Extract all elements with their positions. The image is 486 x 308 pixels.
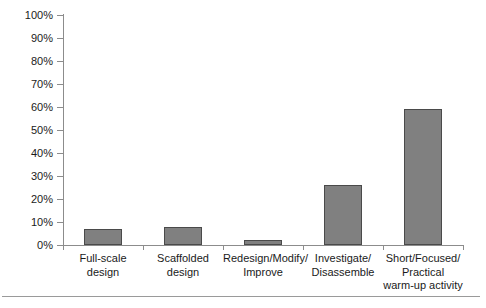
y-axis-tick-label: 100% <box>8 10 53 21</box>
bar <box>324 185 362 245</box>
y-axis-tick-label: 0% <box>8 240 53 251</box>
x-axis-tick-mark <box>223 245 224 250</box>
y-axis-tick-label: 20% <box>8 194 53 205</box>
y-axis-tick-label-text: 50% <box>13 125 53 136</box>
x-axis-category-label: Scaffoldeddesign <box>143 252 223 279</box>
y-axis-tick-label: 80% <box>8 56 53 67</box>
x-axis-category-label-line: design <box>143 266 223 280</box>
x-axis-tick-mark <box>463 245 464 250</box>
y-axis-tick-label: 70% <box>8 79 53 90</box>
y-axis-tick-label: 30% <box>8 171 53 182</box>
y-axis-tick-label-text: 70% <box>13 79 53 90</box>
x-axis-category-label-line: Full-scale <box>63 252 143 266</box>
x-axis-tick-mark <box>383 245 384 250</box>
x-axis-category-label-line: Investigate/ <box>303 252 383 266</box>
y-axis-tick-label-text: 10% <box>13 217 53 228</box>
x-axis-category-label-line: Redesign/Modify/ <box>223 252 303 266</box>
y-axis-tick-label: 40% <box>8 148 53 159</box>
x-axis-category-label: Redesign/Modify/Improve <box>223 252 303 279</box>
x-axis-tick-mark <box>143 245 144 250</box>
y-axis-tick-label-text: 20% <box>13 194 53 205</box>
y-axis-tick-label-text: 100% <box>13 10 53 21</box>
x-axis-tick-mark <box>303 245 304 250</box>
bar-chart-figure: 0%10%20%30%40%50%60%70%80%90%100% Full-s… <box>0 0 486 308</box>
x-axis-tick-mark <box>63 245 64 250</box>
x-axis-category-label-line: Improve <box>223 266 303 280</box>
x-axis-category-label: Full-scaledesign <box>63 252 143 279</box>
y-axis-tick-label: 60% <box>8 102 53 113</box>
y-axis-tick-label-text: 80% <box>13 56 53 67</box>
bar <box>164 227 202 245</box>
x-axis-category-label-line: Practical <box>383 266 463 280</box>
x-axis-category-label-line: Scaffolded <box>143 252 223 266</box>
x-axis-category-label-line: warm-up activity <box>383 279 463 293</box>
x-axis-category-label: Investigate/Disassemble <box>303 252 383 279</box>
bar <box>84 229 122 245</box>
y-axis-tick-label-text: 40% <box>13 148 53 159</box>
bar <box>404 109 442 245</box>
y-axis-tick-label-text: 0% <box>13 240 53 251</box>
x-axis-category-label-line: Disassemble <box>303 266 383 280</box>
y-axis-tick-label-text: 90% <box>13 33 53 44</box>
y-axis-tick-label: 10% <box>8 217 53 228</box>
y-axis-tick-label-text: 60% <box>13 102 53 113</box>
x-axis-category-label-line: design <box>63 266 143 280</box>
y-axis-line <box>63 14 64 246</box>
bar <box>244 240 282 245</box>
y-axis-tick-label: 90% <box>8 33 53 44</box>
x-axis-line <box>63 245 463 246</box>
y-axis-tick-label: 50% <box>8 125 53 136</box>
footer-divider <box>2 296 480 297</box>
x-axis-category-label-line: Short/Focused/ <box>383 252 463 266</box>
x-axis-category-label: Short/Focused/Practicalwarm-up activity <box>383 252 463 293</box>
y-axis-tick-label-text: 30% <box>13 171 53 182</box>
